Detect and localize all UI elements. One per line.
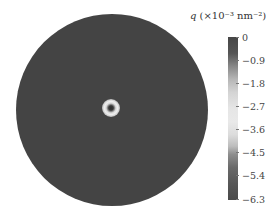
colorbar-variable: q xyxy=(190,10,196,21)
colorbar-tick-mark xyxy=(236,152,239,153)
colorbar-tick-label: −5.4 xyxy=(242,171,265,181)
colorbar-tick-label: −1.8 xyxy=(242,79,265,89)
colorbar-tick-label: −4.5 xyxy=(242,148,265,158)
colorbar-tick-label: −2.7 xyxy=(242,102,265,112)
colorbar-tick-label: −6.3 xyxy=(242,195,265,205)
colorbar-tick-mark xyxy=(236,106,239,107)
colorbar-tick-label: −3.6 xyxy=(242,125,265,135)
colorbar-tick-mark xyxy=(236,83,239,84)
colorbar-tick-mark xyxy=(236,199,239,200)
colorbar-units: (×10⁻³ nm⁻²) xyxy=(200,10,267,21)
colorbar-tick-label: 0 xyxy=(242,33,248,43)
colorbar-tick-mark xyxy=(236,129,239,130)
colorbar-title: q (×10⁻³ nm⁻²) xyxy=(190,10,266,21)
colorbar-tick-mark xyxy=(236,175,239,176)
colorbar-tick-mark xyxy=(236,37,239,38)
central-defect-ring xyxy=(102,99,120,117)
colorbar-tick-mark xyxy=(236,60,239,61)
colorbar-tick-label: −0.9 xyxy=(242,56,265,66)
